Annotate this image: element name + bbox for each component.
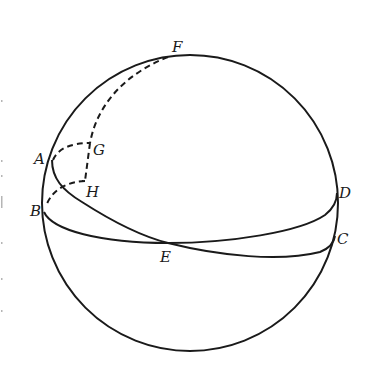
label-H: H — [85, 183, 100, 201]
sphere-outline — [42, 55, 338, 351]
dashed-arc-AG — [53, 143, 90, 160]
label-D: D — [338, 184, 351, 202]
label-C: C — [337, 230, 349, 248]
sphere-diagram: F A G H B E D C — [0, 0, 378, 382]
label-F: F — [171, 38, 183, 56]
label-E: E — [159, 248, 171, 266]
dashed-segment-GH — [82, 143, 90, 181]
label-B: B — [29, 202, 41, 220]
label-A: A — [32, 150, 45, 168]
dashed-arc-HB — [46, 181, 85, 206]
page-edge-specks — [1, 100, 3, 312]
label-G: G — [93, 141, 105, 159]
dashed-arc-FG — [90, 57, 168, 143]
